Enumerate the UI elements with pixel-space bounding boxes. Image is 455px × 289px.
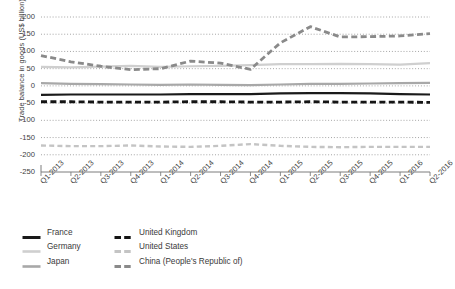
legend-row: GermanyUnited States — [22, 240, 322, 255]
legend-label: United States — [139, 242, 188, 251]
legend-item[interactable]: China (People's Republic of) — [114, 257, 243, 266]
legend-label: Japan — [47, 257, 69, 266]
series-line — [41, 93, 430, 95]
series-line — [41, 83, 430, 85]
legend-item[interactable]: France — [22, 228, 114, 237]
legend-label: United Kingdom — [139, 228, 197, 237]
legend-label: Germany — [47, 242, 81, 251]
legend-item[interactable]: United States — [114, 242, 188, 251]
legend-row: JapanChina (People's Republic of) — [22, 254, 322, 269]
legend-swatch-icon — [114, 228, 133, 237]
series-line — [41, 144, 430, 147]
legend-item[interactable]: Germany — [22, 242, 114, 251]
legend-row: FranceUnited Kingdom — [22, 225, 322, 240]
legend-label: China (People's Republic of) — [139, 257, 243, 266]
series-line — [41, 102, 430, 103]
legend-swatch-icon — [114, 257, 133, 266]
legend-swatch-icon — [22, 242, 41, 251]
legend-item[interactable]: United Kingdom — [114, 228, 197, 237]
legend-item[interactable]: Japan — [22, 257, 114, 266]
legend-swatch-icon — [114, 242, 133, 251]
data-series-layer — [41, 27, 430, 148]
chart-legend: FranceUnited KingdomGermanyUnited States… — [22, 225, 322, 269]
legend-swatch-icon — [22, 228, 41, 237]
legend-swatch-icon — [22, 257, 41, 266]
legend-label: France — [47, 228, 72, 237]
